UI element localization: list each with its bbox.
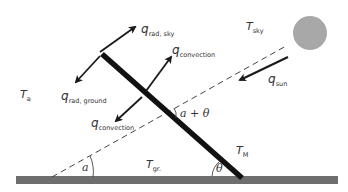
ground-bar <box>16 176 338 184</box>
q-rad-ground-arrow <box>76 56 100 82</box>
alpha-angle-label: a <box>82 161 89 174</box>
pv-module-panel <box>102 54 242 178</box>
alpha-angle-arc <box>90 156 93 177</box>
t-sky-label: Tsky <box>246 20 264 35</box>
q-sun-label: qsun <box>268 72 287 88</box>
q-convection-top-arrow <box>146 57 171 91</box>
t-module-label: TM <box>236 144 248 159</box>
pv-module-energy-balance-diagram: qrad, sky qconvection qrad, ground qconv… <box>0 0 348 192</box>
q-rad-sky-label: qrad, sky <box>141 22 174 38</box>
q-sun-arrow <box>240 57 288 80</box>
alpha-plus-theta-angle-label: a + θ <box>180 107 210 120</box>
t-ground-label: Tgr. <box>146 158 161 173</box>
q-convection-bottom-label: qconvection <box>91 116 134 132</box>
theta-angle-label: θ <box>216 162 223 175</box>
q-convection-top-label: qconvection <box>172 43 215 59</box>
sun-icon <box>293 16 327 50</box>
t-ambient-label: Ta <box>20 88 31 103</box>
q-convection-bottom-arrow <box>116 97 142 121</box>
q-rad-sky-arrow <box>100 27 135 52</box>
q-rad-ground-label: qrad, ground <box>61 89 107 105</box>
